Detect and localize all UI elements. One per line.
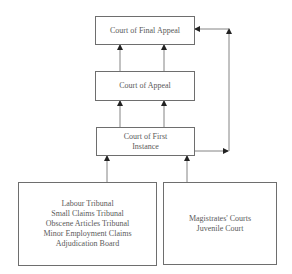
node-label: Instance [124, 142, 168, 152]
node-court-of-appeal: Court of Appeal [95, 71, 195, 101]
node-label: Minor Employment Claims [44, 229, 132, 239]
node-label: Magistrates' Courts [189, 214, 251, 224]
node-label: Adjudication Board [44, 239, 132, 249]
node-label: Small Claims Tribunal [44, 209, 132, 219]
node-label: Labour Tribunal [44, 199, 132, 209]
node-label: Court of Appeal [119, 81, 171, 91]
node-label: Court of First [124, 132, 168, 142]
node-label: Juvenile Court [189, 224, 251, 234]
node-magistrates-courts: Magistrates' Courts Juvenile Court [163, 182, 277, 265]
node-tribunals: Labour Tribunal Small Claims Tribunal Ob… [18, 182, 157, 266]
node-label: Court of Final Appeal [110, 26, 180, 36]
node-court-of-first-instance: Court of First Instance [96, 127, 195, 156]
node-court-of-final-appeal: Court of Final Appeal [95, 16, 195, 45]
node-label: Obscene Articles Tribunal [44, 219, 132, 229]
